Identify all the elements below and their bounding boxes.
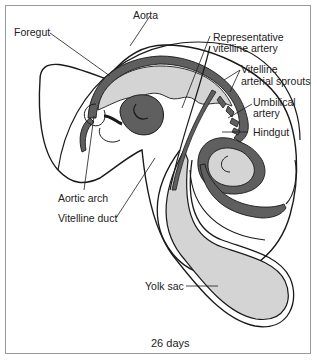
label-aortic-arch: Aortic arch	[58, 193, 108, 204]
aortic-arch	[80, 118, 94, 152]
label-aorta: Aorta	[133, 10, 158, 21]
embryo-diagram	[0, 0, 317, 362]
label-yolk-sac: Yolk sac	[145, 281, 184, 292]
heart	[120, 95, 164, 135]
label-vitelline-arterial-sprouts-line1: Vitelline	[241, 64, 278, 75]
leader-vitelline-duct	[116, 158, 155, 218]
label-representative-vitelline-artery-line2: vitelline artery	[213, 43, 278, 54]
label-foregut: Foregut	[14, 27, 50, 38]
label-hindgut: Hindgut	[253, 127, 289, 138]
label-umbilical-artery-line2: artery	[253, 108, 280, 119]
label-vitelline-arterial-sprouts-line2: arterial sprouts	[241, 76, 310, 87]
label-vitelline-duct: Vitelline duct	[58, 213, 117, 224]
figure-caption: 26 days	[151, 337, 190, 349]
